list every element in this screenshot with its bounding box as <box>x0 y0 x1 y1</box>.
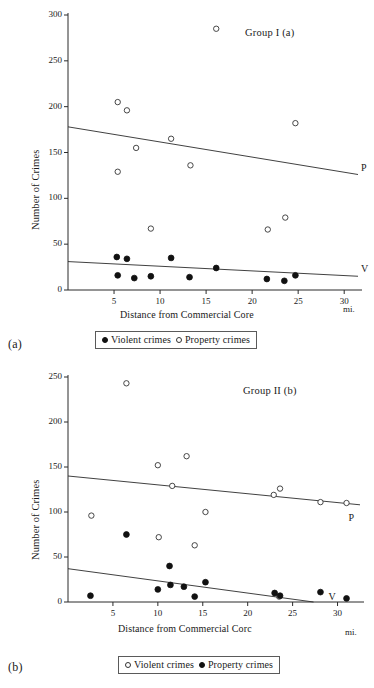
y-tick-label: 150 <box>24 461 62 471</box>
data-point-filled <box>155 587 161 593</box>
legend-label: Violent crimes <box>134 659 194 670</box>
data-point-filled <box>264 276 270 282</box>
data-point-filled <box>318 589 324 595</box>
legend: Violent crimesProperty crimes <box>95 331 257 349</box>
x-tick-label: 20 <box>234 608 262 618</box>
y-tick-label: 250 <box>24 371 62 381</box>
data-point-filled <box>213 265 219 271</box>
data-point-filled <box>292 272 298 278</box>
y-axis-label: Number of Crimes <box>30 150 41 230</box>
data-point-filled <box>192 594 198 600</box>
y-tick-label: 300 <box>24 9 62 19</box>
x-tick-label: 10 <box>146 296 174 306</box>
data-point-open <box>170 483 175 488</box>
data-point-open <box>265 227 270 232</box>
data-point-filled <box>272 590 278 596</box>
data-point-filled <box>168 255 174 261</box>
data-point-filled <box>277 593 283 599</box>
data-point-open <box>214 26 219 31</box>
group-title: Group II (b) <box>243 385 297 396</box>
data-point-open <box>188 163 193 168</box>
legend-item: Violent crimes <box>102 334 171 345</box>
trend-line-p <box>68 476 360 505</box>
data-point-open <box>344 500 349 505</box>
legend-item: Violent crimes <box>125 659 194 670</box>
data-point-open <box>133 145 138 150</box>
data-point-filled <box>181 584 187 590</box>
filled-circle-icon <box>199 662 205 668</box>
x-tick-label: 20 <box>238 296 266 306</box>
y-axis-label: Number of Crimes <box>30 480 41 560</box>
trend-line-label-v: V <box>329 591 336 602</box>
data-point-open <box>293 120 298 125</box>
data-point-filled <box>187 274 193 280</box>
data-point-open <box>89 513 94 518</box>
y-tick-label: 200 <box>24 416 62 426</box>
data-point-open <box>115 99 120 104</box>
data-point-open <box>184 454 189 459</box>
y-tick-label: 50 <box>24 238 62 248</box>
group-title: Group I (a) <box>245 27 294 38</box>
filled-circle-icon <box>102 337 108 343</box>
x-tick-label: 25 <box>284 296 312 306</box>
data-point-filled <box>167 563 173 569</box>
x-tick-label: 10 <box>144 608 172 618</box>
x-axis-unit: mi. <box>345 628 357 637</box>
data-point-filled <box>114 254 120 260</box>
trend-line-label-v: V <box>361 263 368 274</box>
data-point-filled <box>115 272 121 278</box>
x-tick-label: 25 <box>279 608 307 618</box>
data-point-filled <box>131 275 137 281</box>
data-point-open <box>318 499 323 504</box>
legend-label: Violent crimes <box>111 334 171 345</box>
data-point-open <box>203 509 208 514</box>
trend-line-p <box>68 127 358 175</box>
data-point-open <box>155 463 160 468</box>
data-point-filled <box>124 256 130 262</box>
data-point-filled <box>344 596 350 602</box>
data-point-open <box>271 492 276 497</box>
data-point-filled <box>168 582 174 588</box>
open-circle-icon <box>125 662 131 668</box>
x-tick-label: 5 <box>100 296 128 306</box>
x-tick-label: 30 <box>324 608 352 618</box>
data-point-open <box>192 543 197 548</box>
y-tick-label: 0 <box>24 284 62 294</box>
data-point-open <box>283 215 288 220</box>
trend-line-label-p: P <box>349 512 355 523</box>
data-point-filled <box>124 532 130 538</box>
data-point-filled <box>281 278 287 284</box>
legend: Violent crimesProperty crimes <box>118 656 280 674</box>
figure-panel-b: (b) 05010015020025051015202530PVGroup II… <box>0 360 374 688</box>
data-point-filled <box>203 579 209 585</box>
y-tick-label: 0 <box>24 596 62 606</box>
data-point-open <box>124 381 129 386</box>
data-point-filled <box>88 593 94 599</box>
data-point-open <box>124 108 129 113</box>
x-axis-label: Distance from Commercial Corc <box>118 623 252 634</box>
data-point-open <box>156 535 161 540</box>
data-point-open <box>168 136 173 141</box>
figure-panel-a: (a) 05010015020025030051015202530PVGroup… <box>0 0 374 360</box>
legend-item: Property crimes <box>199 659 273 670</box>
trend-line-label-p: P <box>361 162 367 173</box>
open-circle-icon <box>176 337 182 343</box>
data-point-open <box>148 226 153 231</box>
legend-label: Property crimes <box>185 334 250 345</box>
x-axis-label: Distance from Commercial Core <box>120 309 254 320</box>
x-tick-label: 15 <box>192 296 220 306</box>
legend-label: Property crimes <box>208 659 273 670</box>
trend-line-v <box>68 262 358 277</box>
x-axis-unit: mi. <box>343 305 355 314</box>
legend-item: Property crimes <box>176 334 250 345</box>
data-point-filled <box>148 273 154 279</box>
x-tick-label: 15 <box>189 608 217 618</box>
data-point-open <box>115 169 120 174</box>
y-tick-label: 200 <box>24 101 62 111</box>
data-point-open <box>277 486 282 491</box>
x-tick-label: 5 <box>99 608 127 618</box>
plot-canvas <box>0 360 374 688</box>
y-tick-label: 250 <box>24 55 62 65</box>
